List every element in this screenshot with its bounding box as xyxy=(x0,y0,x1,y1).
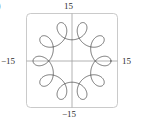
axis-label-right: 15 xyxy=(122,56,131,66)
figure-screenshot: ) 15 −15 −15 15 xyxy=(0,0,144,123)
axis-label-bottom: −15 xyxy=(62,109,76,119)
axis-label-top: 15 xyxy=(64,1,73,11)
axis-label-left: −15 xyxy=(1,56,15,66)
